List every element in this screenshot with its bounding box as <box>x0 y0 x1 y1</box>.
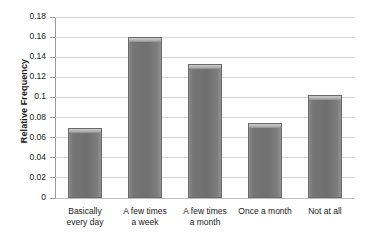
x-axis-tick-label: Basically every day <box>55 206 115 228</box>
x-axis-tick-label: A few times a week <box>115 206 175 228</box>
bar-top-highlight <box>129 38 161 42</box>
y-axis-tick-label: 0 <box>2 192 46 202</box>
y-axis-tick-label: 0.1 <box>2 91 46 101</box>
gridline <box>55 17 355 18</box>
bar <box>128 37 162 198</box>
bar-top-highlight <box>249 124 281 128</box>
x-axis-tick-label: A few times a month <box>175 206 235 228</box>
gridline <box>55 57 355 58</box>
y-axis-tick-label: 0.14 <box>2 51 46 61</box>
bar-top-highlight <box>69 129 101 133</box>
bar-top-highlight <box>309 96 341 100</box>
plot-area <box>55 17 355 198</box>
y-axis-tick-label: 0.02 <box>2 172 46 182</box>
bar-chart: Relative Frequency 00.020.040.060.080.10… <box>0 0 366 246</box>
y-axis-tick-label: 0.18 <box>2 11 46 21</box>
bar <box>68 128 102 198</box>
gridline <box>55 37 355 38</box>
bar-top-highlight <box>189 65 221 69</box>
bar <box>308 95 342 198</box>
y-axis-tick-label: 0.04 <box>2 152 46 162</box>
bar <box>248 123 282 198</box>
y-axis-tick-label: 0.06 <box>2 132 46 142</box>
y-axis-tick-label: 0.08 <box>2 112 46 122</box>
y-axis-tick-label: 0.16 <box>2 31 46 41</box>
y-axis-tick-label: 0.12 <box>2 71 46 81</box>
x-axis-tick-label: Once a month <box>235 206 295 217</box>
x-axis-tick-label: Not at all <box>295 206 355 217</box>
bar <box>188 64 222 198</box>
